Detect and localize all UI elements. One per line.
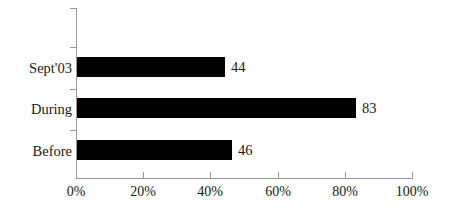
category-label-before: Before bbox=[33, 143, 72, 159]
bar-before bbox=[77, 140, 232, 160]
y-axis-tick-3 bbox=[70, 130, 76, 131]
x-axis-tick-40 bbox=[210, 172, 211, 179]
x-axis-label-20: 20% bbox=[113, 183, 173, 201]
x-axis-tick-60 bbox=[278, 172, 279, 179]
x-axis-label-0: 0% bbox=[46, 183, 106, 201]
x-axis-tick-20 bbox=[143, 172, 144, 179]
value-label-before: 46 bbox=[238, 142, 253, 158]
y-axis-tick-2 bbox=[70, 89, 76, 90]
y-axis-tick-1 bbox=[70, 47, 76, 48]
x-axis-label-40: 40% bbox=[180, 183, 240, 201]
bar-chart: 0% 20% 40% 60% 80% 100% Sept'03 During B… bbox=[0, 0, 451, 220]
x-axis-tick-100 bbox=[412, 172, 413, 179]
x-axis-label-60: 60% bbox=[248, 183, 308, 201]
x-axis-line bbox=[76, 178, 413, 179]
x-axis-tick-80 bbox=[345, 172, 346, 179]
category-label-sept03: Sept'03 bbox=[29, 60, 72, 76]
bar-during bbox=[77, 98, 356, 118]
x-axis-label-100: 100% bbox=[382, 183, 442, 201]
category-label-during: During bbox=[31, 101, 72, 117]
x-axis-tick-0 bbox=[76, 172, 77, 179]
bar-sept03 bbox=[77, 57, 225, 77]
value-label-sept03: 44 bbox=[231, 59, 246, 75]
y-axis-tick-top bbox=[70, 8, 76, 9]
value-label-during: 83 bbox=[362, 100, 377, 116]
x-axis-label-80: 80% bbox=[315, 183, 375, 201]
